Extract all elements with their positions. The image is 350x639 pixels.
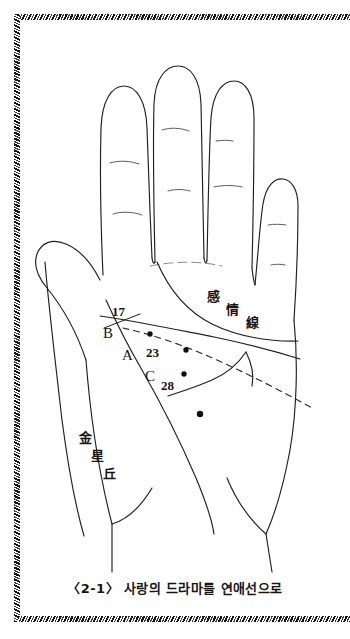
fate-line-lower xyxy=(246,352,253,386)
dot-a xyxy=(183,347,188,352)
dot-c xyxy=(181,371,186,376)
dot-low xyxy=(197,411,203,417)
thumb-outline xyxy=(36,241,100,360)
heart-line-label-char-2: 情 xyxy=(226,303,239,316)
ring-finger-outline xyxy=(207,81,254,268)
venus-mount-label-char-2: 星 xyxy=(91,449,104,462)
label-23: 23 xyxy=(146,346,159,359)
figure-page: 17 B A 23 C 28 感 情 線 金 星 丘 〈2-1〉 사랑의 드라마… xyxy=(0,0,350,639)
label-B: B xyxy=(103,326,113,341)
palm-base-left xyxy=(112,488,152,524)
upper-palm-crease xyxy=(150,262,222,266)
index-finger-outline xyxy=(101,86,152,275)
palm-base-right xyxy=(227,478,266,534)
venus-mount-label-char-1: 金 xyxy=(79,431,92,444)
web-ring-little xyxy=(252,268,255,285)
heart-line-label-char-3: 線 xyxy=(246,316,259,329)
little-finger-outline xyxy=(255,179,298,320)
figure-caption: 〈2-1〉 사랑의 드라마를 연애선으로 xyxy=(0,578,350,597)
heart-line-label-char-1: 感 xyxy=(207,290,220,303)
fate-line xyxy=(168,352,246,396)
label-C: C xyxy=(145,369,155,384)
palm-right-edge xyxy=(266,320,296,534)
palm-diagram-svg xyxy=(0,0,350,639)
finger-crease-group xyxy=(110,128,286,265)
label-28: 28 xyxy=(161,379,174,392)
dot-b xyxy=(147,331,152,336)
thumb-inner-edge xyxy=(45,262,84,536)
venus-mount-label-char-3: 丘 xyxy=(103,467,116,480)
label-A: A xyxy=(122,348,133,363)
label-17: 17 xyxy=(112,305,125,318)
middle-finger-outline xyxy=(154,66,204,262)
life-line xyxy=(106,300,214,534)
wrist-right xyxy=(266,534,272,572)
